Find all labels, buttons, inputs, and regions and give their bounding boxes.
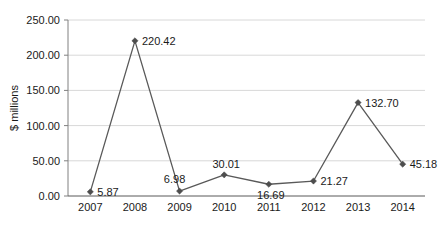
x-tick-label: 2007 — [78, 201, 102, 213]
y-tick-label: 150.00 — [26, 84, 60, 96]
chart-canvas: 0.0050.00100.00150.00200.00250.00 200720… — [0, 0, 442, 227]
x-tick-label: 2010 — [212, 201, 236, 213]
data-point-label: 5.87 — [97, 186, 118, 198]
x-tick-label: 2009 — [167, 201, 191, 213]
data-point-label: 45.18 — [410, 158, 438, 170]
data-point-label: 220.42 — [142, 35, 176, 47]
x-tick-label: 2012 — [301, 201, 325, 213]
y-tick-label: 250.00 — [26, 14, 60, 26]
data-point-label: 6.98 — [164, 173, 185, 185]
y-tick-label: 100.00 — [26, 120, 60, 132]
data-point-label: 16.69 — [257, 189, 285, 201]
data-point-label: 21.27 — [320, 175, 348, 187]
y-tick-label: 50.00 — [32, 155, 60, 167]
x-tick-label: 2008 — [123, 201, 147, 213]
data-point-label: 30.01 — [212, 158, 240, 170]
line-chart: 0.0050.00100.00150.00200.00250.00 200720… — [0, 0, 442, 227]
y-axis-title: $ millions — [8, 85, 20, 131]
x-tick-label: 2014 — [390, 201, 414, 213]
x-tick-label: 2013 — [346, 201, 370, 213]
chart-background — [0, 0, 442, 227]
y-tick-label: 0.00 — [39, 190, 60, 202]
data-point-label: 132.70 — [365, 97, 399, 109]
y-tick-label: 200.00 — [26, 49, 60, 61]
x-tick-label: 2011 — [257, 201, 281, 213]
